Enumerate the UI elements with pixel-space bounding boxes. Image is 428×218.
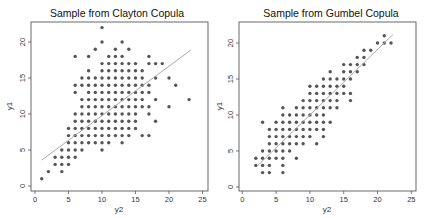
data-point bbox=[389, 41, 392, 44]
data-point bbox=[295, 157, 298, 160]
data-point bbox=[87, 134, 90, 137]
data-point bbox=[120, 55, 123, 58]
data-point bbox=[154, 120, 157, 123]
data-point bbox=[100, 148, 103, 151]
data-point bbox=[308, 128, 311, 131]
gumbel-plot-panel: Sample from Gumbel Copula 0510152025 051… bbox=[214, 0, 428, 218]
data-point bbox=[315, 92, 318, 95]
y-axis: 05101520 bbox=[226, 39, 239, 189]
data-point bbox=[120, 69, 123, 72]
data-point bbox=[174, 84, 177, 87]
clayton-plot-panel: Sample from Clayton Copula 0510152025 05… bbox=[0, 0, 214, 218]
data-point bbox=[134, 84, 137, 87]
data-point bbox=[315, 85, 318, 88]
data-point bbox=[87, 84, 90, 87]
data-point bbox=[147, 62, 150, 65]
data-point bbox=[141, 91, 144, 94]
y-tick-label: 10 bbox=[226, 111, 235, 119]
data-point bbox=[94, 141, 97, 144]
data-point bbox=[335, 92, 338, 95]
data-point bbox=[80, 84, 83, 87]
data-point bbox=[274, 128, 277, 131]
data-point bbox=[127, 84, 130, 87]
data-point bbox=[67, 163, 70, 166]
data-point bbox=[268, 164, 271, 167]
y-axis-label: y1 bbox=[215, 101, 224, 110]
data-point bbox=[80, 141, 83, 144]
data-point bbox=[127, 69, 130, 72]
data-point bbox=[342, 77, 345, 80]
data-point bbox=[134, 120, 137, 123]
data-point bbox=[74, 84, 77, 87]
data-point bbox=[349, 99, 352, 102]
data-point bbox=[308, 99, 311, 102]
data-point bbox=[134, 62, 137, 65]
data-point bbox=[376, 41, 379, 44]
data-point bbox=[328, 99, 331, 102]
data-point bbox=[67, 134, 70, 137]
data-point bbox=[107, 62, 110, 65]
data-point bbox=[308, 106, 311, 109]
x-tick-label: 15 bbox=[131, 195, 139, 204]
data-point bbox=[94, 112, 97, 115]
data-point bbox=[114, 134, 117, 137]
plot-frame bbox=[31, 22, 208, 191]
data-point bbox=[274, 142, 277, 145]
data-point bbox=[87, 141, 90, 144]
data-point bbox=[308, 85, 311, 88]
data-point bbox=[87, 127, 90, 130]
data-point bbox=[80, 112, 83, 115]
data-point bbox=[349, 63, 352, 66]
data-point bbox=[356, 56, 359, 59]
data-point bbox=[362, 56, 365, 59]
data-point bbox=[74, 127, 77, 130]
data-point bbox=[268, 128, 271, 131]
x-tick-label: 5 bbox=[274, 195, 278, 204]
data-point bbox=[281, 113, 284, 116]
data-point bbox=[127, 105, 130, 108]
data-point bbox=[87, 55, 90, 58]
data-point bbox=[100, 98, 103, 101]
data-point bbox=[147, 105, 150, 108]
data-point bbox=[120, 134, 123, 137]
fit-line bbox=[42, 50, 191, 160]
data-point bbox=[315, 121, 318, 124]
data-point bbox=[120, 141, 123, 144]
data-point bbox=[60, 148, 63, 151]
data-point bbox=[322, 121, 325, 124]
y-axis: 05101520 bbox=[18, 38, 31, 188]
data-point bbox=[141, 76, 144, 79]
data-point bbox=[274, 157, 277, 160]
data-point bbox=[254, 157, 257, 160]
data-point bbox=[80, 134, 83, 137]
y-tick-label: 0 bbox=[18, 184, 27, 188]
data-point bbox=[80, 148, 83, 151]
data-point bbox=[87, 98, 90, 101]
data-point bbox=[281, 121, 284, 124]
x-axis: 0510152025 bbox=[240, 191, 415, 204]
data-point bbox=[308, 121, 311, 124]
data-point bbox=[120, 62, 123, 65]
data-point bbox=[281, 135, 284, 138]
y-tick-label: 0 bbox=[226, 185, 235, 189]
data-point bbox=[100, 40, 103, 43]
data-point bbox=[107, 69, 110, 72]
x-tick-label: 25 bbox=[198, 195, 206, 204]
data-point bbox=[74, 55, 77, 58]
data-point bbox=[100, 120, 103, 123]
data-point bbox=[295, 121, 298, 124]
data-point bbox=[107, 112, 110, 115]
data-point bbox=[315, 128, 318, 131]
data-point bbox=[80, 98, 83, 101]
data-point bbox=[315, 142, 318, 145]
data-point bbox=[134, 69, 137, 72]
data-point bbox=[74, 148, 77, 151]
data-point bbox=[328, 106, 331, 109]
data-point bbox=[322, 128, 325, 131]
data-point bbox=[114, 98, 117, 101]
data-point bbox=[120, 127, 123, 130]
data-point bbox=[295, 113, 298, 116]
x-axis: 0510152025 bbox=[33, 191, 207, 204]
data-point bbox=[315, 113, 318, 116]
y-axis-label: y1 bbox=[5, 101, 14, 110]
